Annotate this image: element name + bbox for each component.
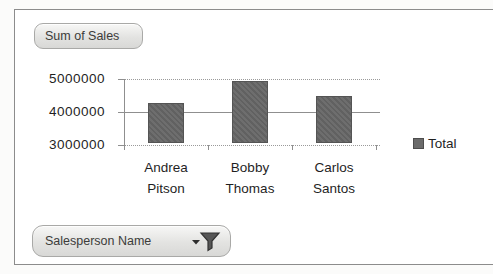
pivot-chart-frame: Sum of Sales 5000000 4000000 3000000 And… [14, 9, 493, 265]
y-tickmark [118, 79, 124, 80]
filter-funnel-icon [191, 231, 221, 252]
x-tickmark [208, 145, 209, 150]
axis-field-button[interactable]: Salesperson Name [32, 225, 231, 257]
x-axis-category-label: Andrea Pitson [130, 157, 202, 199]
legend-label: Total [428, 136, 457, 151]
bar-bobby-thomas[interactable] [232, 81, 268, 143]
x-tickmark [376, 145, 377, 150]
values-field-button[interactable]: Sum of Sales [34, 23, 143, 49]
x-tickmark [124, 145, 125, 150]
axis-field-label: Salesperson Name [45, 234, 151, 248]
y-axis-label-4000000: 4000000 [27, 103, 105, 121]
values-field-label: Sum of Sales [45, 29, 119, 43]
y-tickmark [118, 112, 124, 113]
pivot-chart-canvas: Sum of Sales 5000000 4000000 3000000 And… [0, 0, 493, 274]
y-axis-line [124, 79, 125, 146]
legend-marker-icon [413, 138, 424, 149]
legend[interactable]: Total [413, 136, 457, 151]
x-tickmark [292, 145, 293, 150]
x-axis-category-label: Carlos Santos [298, 157, 370, 199]
x-axis-category-label: Bobby Thomas [214, 157, 286, 199]
x-axis-line [124, 145, 380, 146]
gridline-5000000 [124, 79, 380, 80]
dropdown-caret-icon [192, 240, 200, 245]
y-axis-label-5000000: 5000000 [27, 70, 105, 88]
bar-andrea-pitson[interactable] [148, 103, 184, 143]
y-axis-label-3000000: 3000000 [27, 136, 105, 154]
bar-carlos-santos[interactable] [316, 96, 352, 143]
